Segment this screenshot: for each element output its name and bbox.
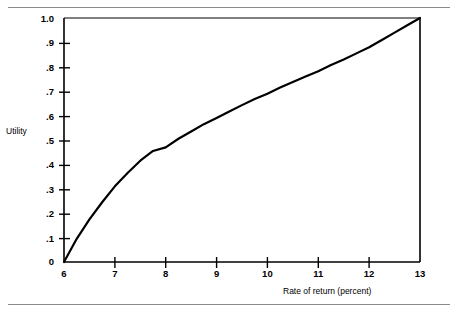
y-tick-label-1_0: 1.0 <box>28 13 54 24</box>
y-tick-label-0_4: .4 <box>28 159 54 170</box>
y-tick-label-0_1: .1 <box>28 233 54 244</box>
x-tick-label-6: 6 <box>54 268 74 279</box>
x-tick-label-10: 10 <box>257 268 277 279</box>
y-tick-label-0_6: .6 <box>28 111 54 122</box>
y-tick-label-0_3: .3 <box>28 184 54 195</box>
x-tick-label-12: 12 <box>359 268 379 279</box>
y-tick-label-0: 0 <box>28 256 54 267</box>
x-tick-label-8: 8 <box>156 268 176 279</box>
x-tick-label-9: 9 <box>207 268 227 279</box>
utility-curve-figure: 1.0 .9 .8 .7 .6 .5 .4 .3 .2 .1 0 6 7 8 9… <box>0 0 458 313</box>
y-axis-title: Utility <box>6 126 27 136</box>
plot-area <box>0 0 458 313</box>
y-tick-label-0_2: .2 <box>28 208 54 219</box>
y-tick-label-0_5: .5 <box>28 135 54 146</box>
utility-curve-line <box>64 18 420 262</box>
y-tick-label-0_7: .7 <box>28 86 54 97</box>
y-tick-label-0_9: .9 <box>28 37 54 48</box>
x-tick-label-11: 11 <box>308 268 328 279</box>
x-tick-label-7: 7 <box>105 268 125 279</box>
bottom-divider-rule <box>8 304 450 305</box>
y-tick-label-0_8: .8 <box>28 62 54 73</box>
x-axis-title: Rate of return (percent) <box>283 286 371 296</box>
x-tick-label-13: 13 <box>410 268 430 279</box>
